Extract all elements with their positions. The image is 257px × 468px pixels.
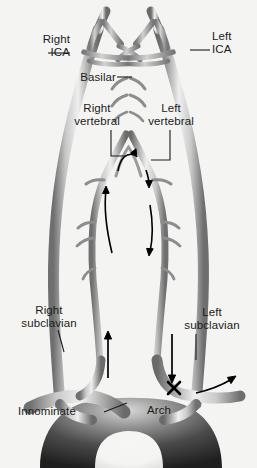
right-subclavian-artery — [80, 360, 101, 396]
label-left-vertebral: Left vertebral — [140, 102, 202, 127]
arrow-left-vertebral-steal — [147, 205, 154, 256]
label-right-ica-line2: ICA — [51, 46, 70, 58]
label-left-ica: Left ICA — [212, 30, 257, 55]
arrow-right-subclavian-antegrade — [104, 331, 111, 378]
label-arch: Arch — [147, 404, 171, 417]
diagram-canvas — [0, 0, 257, 468]
label-basilar: Basilar — [58, 71, 116, 84]
label-innominate: Innominate — [18, 405, 76, 418]
label-left-subclavian-line2: subclavian — [184, 319, 239, 331]
label-right-subclavian-line1: Right — [35, 304, 62, 316]
label-left-vertebral-line1: Left — [161, 102, 181, 114]
label-left-ica-line1: Left — [212, 30, 232, 42]
label-right-vertebral: Right vertebral — [66, 102, 128, 127]
vessel-illustration — [0, 0, 257, 468]
label-right-subclavian-line2: subclavian — [21, 317, 76, 329]
label-right-ica-line1: Right — [43, 33, 70, 45]
leader-left-vertebral — [151, 130, 170, 160]
label-right-vertebral-line1: Right — [83, 102, 110, 114]
label-left-vertebral-line2: vertebral — [148, 115, 194, 127]
arrow-left-vertebral-down — [168, 334, 175, 383]
label-left-subclavian-line1: Left — [202, 306, 222, 318]
label-right-vertebral-line2: vertebral — [74, 115, 120, 127]
arrow-right-vertebral-retrograde — [103, 186, 112, 253]
label-right-ica: Right ICA — [8, 33, 70, 58]
label-left-ica-line2: ICA — [212, 43, 231, 55]
label-left-subclavian: Left subclavian — [172, 306, 252, 331]
label-right-subclavian: Right subclavian — [10, 304, 88, 329]
